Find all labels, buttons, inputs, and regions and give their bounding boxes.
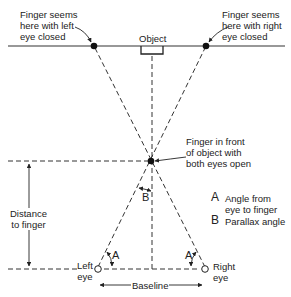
object-box — [141, 46, 163, 54]
label-finger-front: Finger in front of object with both eyes… — [186, 136, 251, 169]
label-object: Object — [139, 33, 166, 44]
legend-text-b: Parallax angle — [225, 216, 285, 227]
label-distance: Distance to finger — [10, 208, 47, 230]
label-angle-a-left: A — [112, 250, 119, 261]
label-angle-a-right: A — [185, 250, 192, 261]
label-baseline: Baseline — [131, 280, 169, 291]
dot-left-closed — [91, 43, 98, 50]
dot-finger — [148, 158, 155, 165]
legend-key-b: B — [211, 215, 219, 226]
dot-right-closed — [203, 43, 210, 50]
legend-text-a: Angle from eye to finger — [225, 193, 277, 215]
left-eye-icon — [95, 266, 102, 273]
label-angle-b: B — [142, 192, 149, 203]
right-eye-icon — [202, 266, 209, 273]
label-left-eye: Left eye — [77, 260, 93, 282]
label-left-closed: Finger seems here with left eye closed — [20, 9, 78, 42]
label-right-eye: Right eye — [213, 261, 235, 283]
pointer-finger — [155, 157, 186, 161]
label-right-closed: Finger seems here with right eye closed — [222, 9, 282, 42]
legend-key-a: A — [211, 192, 219, 203]
